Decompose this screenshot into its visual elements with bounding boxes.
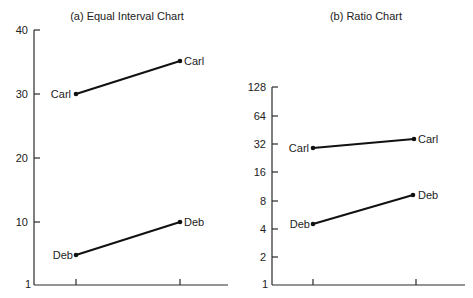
- chart-title: (a) Equal Interval Chart: [70, 10, 184, 22]
- point-label: Carl: [418, 133, 438, 145]
- data-point: [74, 92, 79, 97]
- deb-line: [313, 195, 413, 224]
- point-label: Carl: [289, 142, 309, 154]
- figure: (a) Equal Interval Chart 40 30 20 10 1 C…: [0, 0, 473, 298]
- y-tick-label: 20: [16, 152, 28, 164]
- data-point: [311, 222, 316, 227]
- chart-title: (b) Ratio Chart: [330, 10, 402, 22]
- point-label: Deb: [418, 189, 438, 201]
- data-point: [311, 146, 316, 151]
- y-tick-label: 64: [254, 110, 266, 122]
- data-point: [412, 137, 417, 142]
- data-point: [178, 220, 183, 225]
- carl-line: [313, 139, 414, 148]
- carl-line: [76, 61, 180, 94]
- point-label: Deb: [290, 218, 310, 230]
- point-label: Carl: [184, 55, 204, 67]
- y-tick-label: 40: [16, 24, 28, 36]
- y-tick-label: 128: [248, 81, 266, 93]
- point-label: Deb: [53, 249, 73, 261]
- y-tick-label: 1: [25, 278, 31, 290]
- deb-line: [76, 222, 180, 255]
- y-tick-label: 1: [262, 278, 268, 290]
- y-tick-label: 2: [260, 251, 266, 263]
- data-point: [178, 59, 183, 64]
- point-label: Deb: [184, 216, 204, 228]
- ratio-chart: (b) Ratio Chart 128 64 32 16 8 4 2 1 Car…: [248, 10, 465, 290]
- y-tick-label: 30: [16, 88, 28, 100]
- data-point: [74, 253, 79, 258]
- point-label: Carl: [51, 88, 71, 100]
- y-tick-label: 10: [16, 216, 28, 228]
- equal-interval-chart: (a) Equal Interval Chart 40 30 20 10 1 C…: [16, 10, 228, 290]
- data-point: [411, 193, 416, 198]
- y-tick-label: 16: [254, 166, 266, 178]
- y-tick-label: 32: [254, 138, 266, 150]
- y-tick-label: 4: [260, 223, 266, 235]
- y-tick-label: 8: [260, 195, 266, 207]
